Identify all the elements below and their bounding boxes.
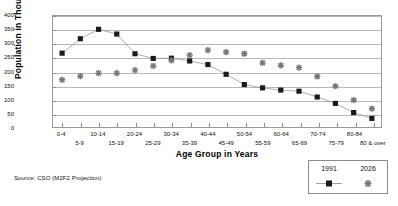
data-point-1991-40-44 [205,62,210,67]
series-2026 [60,48,375,112]
data-point-1991-45-49 [224,72,229,77]
data-point-2026-20-24 [132,68,137,73]
data-point-1991-80 & over [369,116,374,121]
legend-label-2026: 2026 [348,165,388,172]
data-point-2026-15-19 [114,71,119,76]
y-tick-label-250: 250 [0,54,14,60]
data-point-2026-5-9 [78,74,83,79]
y-tick-label-0: 0 [0,125,14,131]
data-point-1991-15-19 [114,31,119,36]
data-point-1991-80-84 [351,110,356,115]
data-point-2026-55-59 [260,60,265,65]
legend-label-1991: 1991 [309,165,349,172]
data-point-2026-40-44 [205,48,210,53]
data-point-1991-35-39 [187,58,192,63]
chart-legend[interactable]: 1991 2026 [308,160,388,194]
series-1991 [60,27,375,121]
chart-figure: Population in Thousands 0501001502002503… [0,0,398,206]
y-tick-label-350: 350 [0,26,14,32]
y-tick-label-400: 400 [0,12,14,18]
data-point-2026-60-64 [278,63,283,68]
y-tick-label-100: 100 [0,97,14,103]
y-tick-label-150: 150 [0,83,14,89]
data-point-2026-25-29 [151,63,156,68]
data-point-1991-65-69 [296,89,301,94]
plot-area [52,15,382,128]
source-note: Source: CSO (M2F2 Projection) [14,175,102,181]
data-point-1991-0-4 [60,51,65,56]
data-point-1991-60-64 [278,88,283,93]
series-layer [53,16,381,127]
data-point-2026-45-49 [224,50,229,55]
data-point-2026-10-14 [96,71,101,76]
legend-marker-square-icon [309,179,349,189]
data-point-1991-75-79 [333,101,338,106]
data-point-1991-10-14 [96,27,101,32]
data-point-2026-65-69 [296,65,301,70]
x-tick-label-80-84: 80-84 [333,131,377,138]
data-point-2026-80-84 [351,98,356,103]
data-point-2026-35-39 [187,53,192,58]
data-point-2026-0-4 [60,77,65,82]
series-line-1991 [62,29,372,118]
data-point-1991-5-9 [78,36,83,41]
x-tick-label-80-over: 80 & over [351,140,395,147]
x-axis-title: Age Group in Years [52,149,382,159]
data-point-2026-75-79 [333,84,338,89]
data-point-1991-70-74 [315,94,320,99]
y-tick-label-300: 300 [0,40,14,46]
data-point-1991-50-54 [242,82,247,87]
data-point-2026-70-74 [315,74,320,79]
data-point-2026-80 & over [369,106,374,111]
data-point-1991-55-59 [260,85,265,90]
y-tick-label-200: 200 [0,69,14,75]
y-tick-label-50: 50 [0,111,14,117]
y-axis-title: Population in Thousands [13,0,27,86]
data-point-1991-25-29 [151,56,156,61]
legend-marker-asterisk-icon [348,179,388,189]
data-point-1991-20-24 [132,51,137,56]
data-point-2026-30-34 [169,58,174,63]
data-point-2026-50-54 [242,51,247,56]
